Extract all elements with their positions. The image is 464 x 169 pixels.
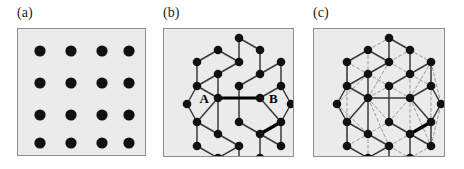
panel-a-site [96, 77, 107, 88]
panel-b-site [256, 154, 265, 156]
panel-c-site [343, 58, 352, 67]
panel-c-nnn-bond [389, 98, 410, 122]
panel-a-site [65, 45, 76, 56]
panel-c-site [364, 46, 373, 55]
panel-c-site [385, 58, 394, 67]
panel-c-site [406, 70, 415, 79]
panel-b-site [235, 82, 244, 91]
panel-b-site [235, 58, 244, 67]
panel-a-site [34, 77, 45, 88]
panel-c-site [333, 100, 342, 109]
panel-c-box [313, 28, 445, 157]
panel-b-site [287, 100, 293, 109]
panel-c-site [385, 118, 394, 127]
panel-b-label: (b) [163, 6, 179, 20]
panel-b-site [214, 154, 223, 156]
panel-c-nnn-bond [368, 98, 389, 122]
panel-a-lattice [18, 29, 145, 155]
panel-b-site [235, 34, 244, 43]
panel-a-site [123, 77, 134, 88]
panel-a-box [17, 28, 146, 156]
panel-c-site [343, 118, 352, 127]
panel-c-bond [347, 98, 368, 122]
panel-c-bond [410, 98, 431, 122]
panel-b-site [277, 118, 286, 127]
panel-c-site [385, 142, 394, 151]
panel-c-site [406, 94, 415, 103]
panel-c-site [364, 94, 373, 103]
panel-c-site [385, 82, 394, 91]
panel-c-label: (c) [313, 6, 329, 20]
panel-c-site [385, 34, 394, 43]
panel-c-lattice [314, 29, 444, 156]
panel-a-site [65, 137, 76, 148]
panel-c-site [364, 154, 373, 156]
panel-a-site [34, 137, 45, 148]
panel-a-site [123, 137, 134, 148]
panel-c-site [437, 100, 444, 109]
panel-b-site [256, 46, 265, 55]
panel-c-site [406, 130, 415, 139]
panel-a-site [65, 77, 76, 88]
panel-a-site [96, 109, 107, 120]
panel-b-site [256, 94, 265, 103]
panel-c-site [364, 130, 373, 139]
panel-c-site [343, 82, 352, 91]
panel-b-site [277, 142, 286, 151]
panel-b-site [193, 82, 202, 91]
panel-b-site [235, 118, 244, 127]
panel-c-site [406, 154, 415, 156]
panel-a-site [123, 109, 134, 120]
panel-b-site [193, 142, 202, 151]
panel-b-site [277, 58, 286, 67]
panel-b-site [214, 130, 223, 139]
panel-c-nnn-bond [337, 104, 368, 134]
panel-b-site [277, 82, 286, 91]
panel-b-site [256, 130, 265, 139]
panel-c-site [427, 118, 436, 127]
panel-a-site [65, 109, 76, 120]
panel-c-site [406, 46, 415, 55]
lattice-figure: (a)(b)AB(c) [0, 0, 464, 169]
panel-b-site [183, 100, 192, 109]
panel-c-site [427, 82, 436, 91]
panel-b-sublattice-label-a: A [200, 91, 210, 106]
panel-a-site [34, 45, 45, 56]
panel-b-site [235, 142, 244, 151]
panel-b-site [214, 94, 223, 103]
panel-c-site [427, 58, 436, 67]
panel-b-site [256, 70, 265, 79]
panel-a-label: (a) [17, 6, 33, 20]
panel-c-site [343, 142, 352, 151]
panel-a-site [123, 45, 134, 56]
panel-b-sublattice-label-b: B [269, 91, 278, 106]
panel-a-site [96, 45, 107, 56]
panel-a-site [34, 109, 45, 120]
panel-b-lattice: AB [164, 29, 293, 156]
panel-b-site [214, 70, 223, 79]
panel-b-site [193, 58, 202, 67]
panel-b-box: AB [163, 28, 294, 157]
panel-b-site [214, 46, 223, 55]
panel-a-site [96, 137, 107, 148]
panel-c-site [427, 142, 436, 151]
panel-b-site [193, 118, 202, 127]
panel-c-site [364, 70, 373, 79]
